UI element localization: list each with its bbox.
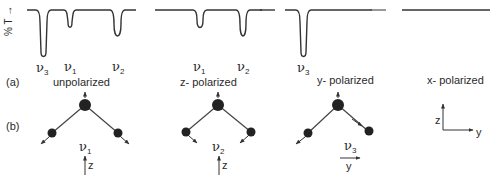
row-label-b: (b) (6, 121, 19, 132)
band-label-nu3: ν3 (297, 61, 309, 79)
ir-polarization-figure: % T → (a) (b) ν3 ν1 ν2 ν1 ν2 ν3 unpolari… (0, 0, 490, 180)
row-label-a: (a) (6, 77, 19, 88)
mode-label-nu2: ν2 (212, 140, 224, 158)
band-label-nu3: ν3 (36, 61, 48, 79)
mode-label-nu3: ν3 (344, 139, 356, 157)
axes-legend (443, 104, 473, 130)
polarization-label-z: z- polarized (180, 77, 237, 88)
molecule-mode-nu2 (182, 92, 256, 175)
mode-axis-label-nu2: z (222, 160, 228, 171)
molecule-mode-nu1 (41, 92, 129, 175)
spectrum-y-polarized (285, 10, 372, 57)
y-axis-label: % T → (3, 6, 14, 36)
mode-label-nu1: ν1 (79, 140, 91, 158)
band-label-nu2: ν2 (112, 60, 124, 78)
spectrum-unpolarized (27, 10, 136, 57)
mode-axis-label-nu3: y (346, 161, 352, 172)
polarization-label-unpolarized: unpolarized (53, 77, 110, 88)
molecule-mode-nu3 (296, 92, 374, 158)
axes-legend-y: y (476, 127, 482, 138)
axes-legend-z: z (435, 115, 441, 126)
spectrum-z-polarized (155, 10, 262, 36)
mode-axis-label-nu1: z (88, 160, 94, 171)
figure-graphics (0, 0, 490, 180)
polarization-label-y: y- polarized (317, 75, 374, 86)
polarization-label-x: x- polarized (427, 75, 484, 86)
band-label-nu2: ν2 (237, 60, 249, 78)
